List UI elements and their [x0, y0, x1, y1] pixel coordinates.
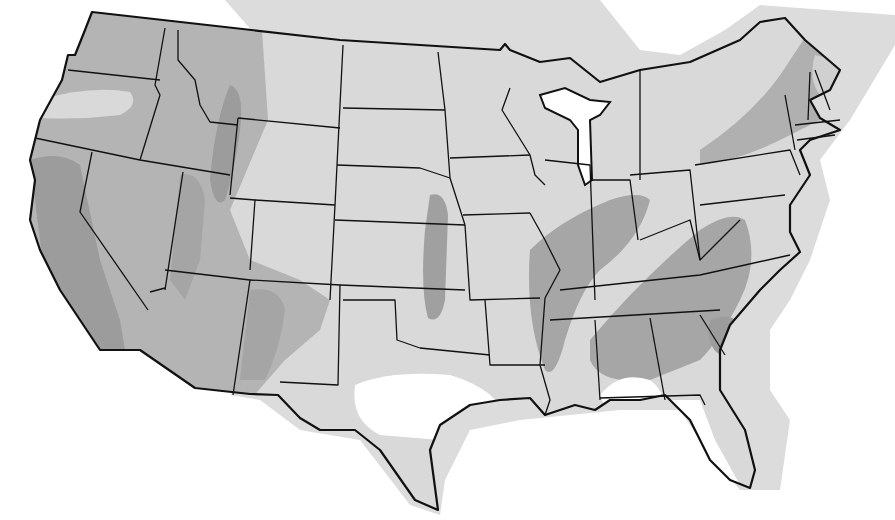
us-zone-map — [0, 0, 895, 520]
map-canvas — [0, 0, 895, 520]
